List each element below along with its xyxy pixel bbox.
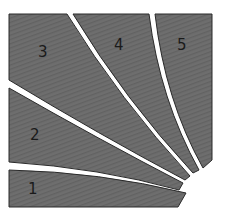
region-label-4: 4: [114, 36, 124, 54]
region-label-3: 3: [38, 43, 48, 61]
region-label-2: 2: [30, 126, 40, 144]
region-label-5: 5: [177, 36, 187, 54]
wedge-diagram: 1 2 3 4 5: [0, 0, 226, 213]
region-label-1: 1: [28, 180, 38, 198]
